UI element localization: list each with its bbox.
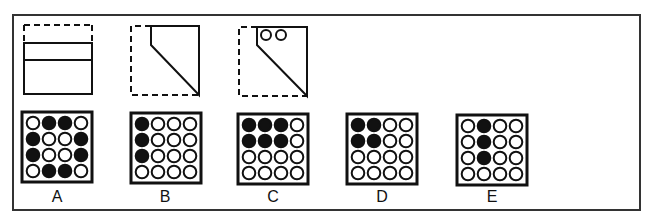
empty-hole-icon bbox=[400, 151, 413, 164]
empty-hole-icon bbox=[462, 152, 475, 165]
empty-hole-icon bbox=[478, 168, 491, 181]
option-label-d: D bbox=[362, 188, 402, 206]
filled-hole-icon bbox=[43, 117, 56, 130]
empty-hole-icon bbox=[384, 119, 397, 132]
filled-hole-icon bbox=[275, 135, 288, 148]
filled-hole-icon bbox=[75, 133, 88, 146]
filled-hole-icon bbox=[27, 149, 40, 162]
empty-hole-icon bbox=[510, 168, 523, 181]
empty-hole-icon bbox=[43, 149, 56, 162]
empty-hole-icon bbox=[462, 136, 475, 149]
empty-hole-icon bbox=[368, 167, 381, 180]
empty-hole-icon bbox=[59, 149, 72, 162]
empty-hole-icon bbox=[152, 166, 165, 179]
empty-hole-icon bbox=[400, 167, 413, 180]
option-label-c: C bbox=[253, 188, 293, 206]
filled-hole-icon bbox=[243, 119, 256, 132]
empty-hole-icon bbox=[259, 151, 272, 164]
empty-hole-icon bbox=[291, 135, 304, 148]
filled-hole-icon bbox=[59, 117, 72, 130]
empty-hole-icon bbox=[291, 119, 304, 132]
option-d[interactable] bbox=[347, 114, 417, 184]
empty-hole-icon bbox=[136, 166, 149, 179]
fold-step-1 bbox=[24, 25, 92, 94]
empty-hole-icon bbox=[275, 151, 288, 164]
filled-hole-icon bbox=[275, 119, 288, 132]
filled-hole-icon bbox=[243, 135, 256, 148]
empty-hole-icon bbox=[184, 150, 197, 163]
filled-hole-icon bbox=[136, 150, 149, 163]
empty-hole-icon bbox=[352, 167, 365, 180]
punch-hole-icon bbox=[261, 30, 271, 40]
empty-hole-icon bbox=[384, 167, 397, 180]
empty-hole-icon bbox=[184, 166, 197, 179]
empty-hole-icon bbox=[368, 151, 381, 164]
empty-hole-icon bbox=[152, 134, 165, 147]
option-label-b: B bbox=[145, 188, 185, 206]
fold-steps-figure bbox=[0, 0, 655, 222]
empty-hole-icon bbox=[462, 168, 475, 181]
option-label-e: E bbox=[472, 188, 512, 206]
option-c[interactable] bbox=[238, 114, 308, 184]
option-e[interactable] bbox=[457, 115, 527, 185]
empty-hole-icon bbox=[494, 136, 507, 149]
empty-hole-icon bbox=[494, 152, 507, 165]
empty-hole-icon bbox=[400, 119, 413, 132]
filled-hole-icon bbox=[136, 118, 149, 131]
empty-hole-icon bbox=[27, 117, 40, 130]
empty-hole-icon bbox=[384, 135, 397, 148]
option-b[interactable] bbox=[131, 113, 201, 183]
filled-hole-icon bbox=[43, 165, 56, 178]
empty-hole-icon bbox=[152, 150, 165, 163]
empty-hole-icon bbox=[510, 120, 523, 133]
empty-hole-icon bbox=[243, 151, 256, 164]
empty-hole-icon bbox=[168, 150, 181, 163]
filled-hole-icon bbox=[478, 152, 491, 165]
filled-hole-icon bbox=[368, 119, 381, 132]
filled-hole-icon bbox=[59, 165, 72, 178]
empty-hole-icon bbox=[275, 167, 288, 180]
empty-hole-icon bbox=[59, 133, 72, 146]
punch-hole-icon bbox=[276, 30, 286, 40]
empty-hole-icon bbox=[184, 118, 197, 131]
empty-hole-icon bbox=[259, 167, 272, 180]
filled-hole-icon bbox=[259, 135, 272, 148]
empty-hole-icon bbox=[510, 152, 523, 165]
empty-hole-icon bbox=[291, 167, 304, 180]
empty-hole-icon bbox=[494, 168, 507, 181]
empty-hole-icon bbox=[400, 135, 413, 148]
fold-step-3 bbox=[239, 27, 307, 96]
empty-hole-icon bbox=[75, 165, 88, 178]
empty-hole-icon bbox=[462, 120, 475, 133]
empty-hole-icon bbox=[168, 134, 181, 147]
option-label-a: A bbox=[37, 188, 77, 206]
fold-step-2 bbox=[131, 26, 199, 95]
empty-hole-icon bbox=[184, 134, 197, 147]
empty-hole-icon bbox=[494, 120, 507, 133]
empty-hole-icon bbox=[291, 151, 304, 164]
empty-hole-icon bbox=[168, 166, 181, 179]
option-a[interactable] bbox=[22, 112, 92, 182]
filled-hole-icon bbox=[75, 149, 88, 162]
filled-hole-icon bbox=[136, 134, 149, 147]
filled-hole-icon bbox=[478, 120, 491, 133]
filled-hole-icon bbox=[478, 136, 491, 149]
empty-hole-icon bbox=[384, 151, 397, 164]
filled-hole-icon bbox=[352, 119, 365, 132]
empty-hole-icon bbox=[352, 151, 365, 164]
empty-hole-icon bbox=[510, 136, 523, 149]
filled-hole-icon bbox=[368, 135, 381, 148]
empty-hole-icon bbox=[43, 133, 56, 146]
empty-hole-icon bbox=[243, 167, 256, 180]
empty-hole-icon bbox=[27, 165, 40, 178]
filled-hole-icon bbox=[259, 119, 272, 132]
empty-hole-icon bbox=[152, 118, 165, 131]
filled-hole-icon bbox=[352, 135, 365, 148]
filled-hole-icon bbox=[27, 133, 40, 146]
empty-hole-icon bbox=[168, 118, 181, 131]
empty-hole-icon bbox=[75, 117, 88, 130]
